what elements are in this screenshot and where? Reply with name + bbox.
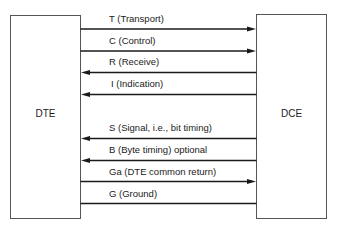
arrow-left-icon (81, 158, 90, 163)
signal-bit-timing: S (Signal, i.e., bit timing) (81, 122, 257, 141)
arrow-left-icon (81, 92, 90, 97)
signal-label: S (Signal, i.e., bit timing) (109, 122, 212, 133)
arrow-left-icon (81, 136, 90, 141)
signal-indication: I (Indication) (81, 78, 257, 97)
signal-label: I (Indication) (111, 78, 163, 89)
signal-control: C (Control) (81, 35, 257, 54)
signal-label: T (Transport) (109, 13, 164, 24)
dce-label: DCE (281, 108, 302, 119)
dte-label: DTE (36, 108, 56, 119)
arrow-left-icon (81, 70, 90, 75)
signal-label: B (Byte timing) optional (109, 144, 207, 155)
arrow-right-icon (247, 179, 256, 184)
arrow-right-icon (247, 27, 256, 32)
signal-byte-timing: B (Byte timing) optional (81, 144, 257, 163)
dte-dce-interface-diagram: DTE DCE T (Transport) C (Control) R (Rec… (0, 0, 344, 226)
dce-box: DCE (257, 15, 327, 219)
dte-box: DTE (11, 16, 81, 219)
signal-label: Ga (DTE common return) (109, 166, 216, 177)
signal-label: C (Control) (109, 35, 155, 46)
signal-label: R (Receive) (109, 56, 159, 67)
signal-label: G (Ground) (109, 188, 157, 199)
arrow-right-icon (247, 49, 256, 54)
signal-receive: R (Receive) (81, 56, 257, 75)
signal-transport: T (Transport) (81, 13, 257, 32)
signal-ground: G (Ground) (81, 188, 257, 204)
signal-dte-common-return: Ga (DTE common return) (81, 166, 257, 184)
